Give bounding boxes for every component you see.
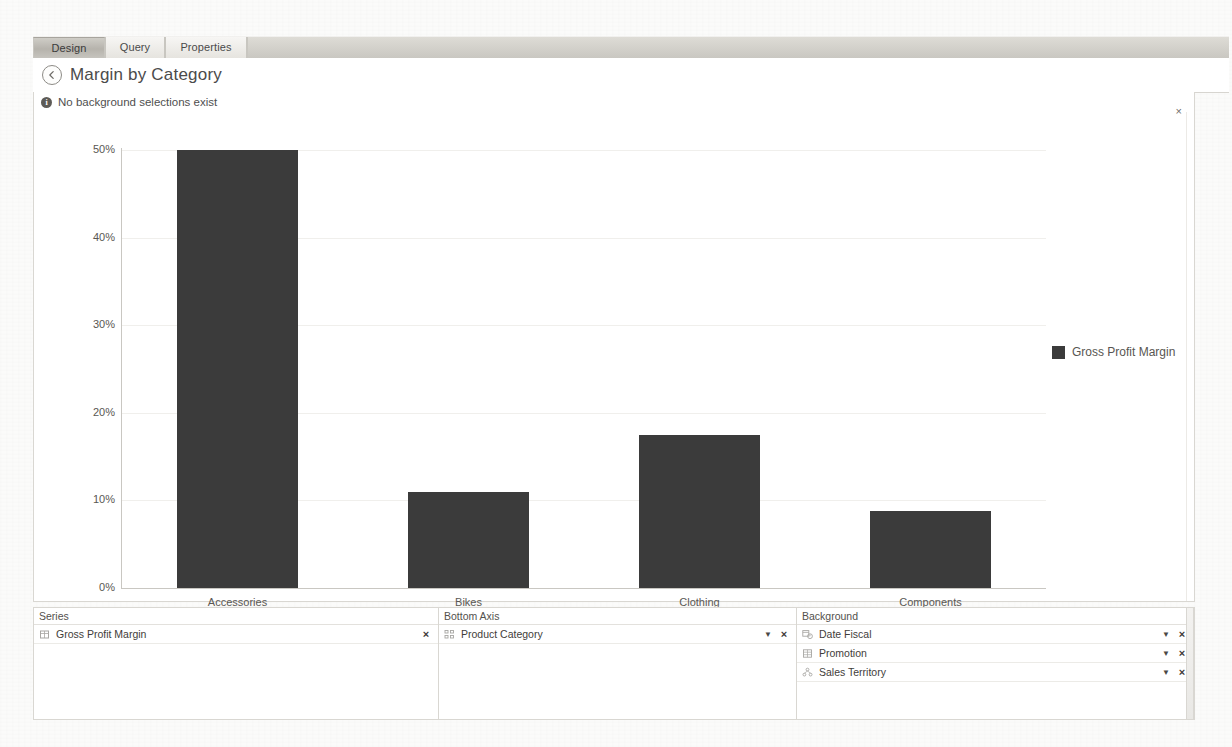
legend-swatch-gross-profit-margin: [1052, 346, 1065, 359]
page-header: Margin by Category: [33, 58, 1229, 93]
y-axis-tick-label: 40%: [67, 231, 115, 243]
tab-properties-label: Properties: [180, 41, 231, 53]
back-arrow-icon[interactable]: [42, 65, 62, 85]
tab-design-label: Design: [52, 42, 87, 54]
chart-container: i No background selections exist × 50%40…: [33, 92, 1195, 602]
field-label: Date Fiscal: [819, 628, 1160, 640]
panel-series: Series Gross Profit Margin ×: [33, 607, 439, 720]
page-title: Margin by Category: [70, 65, 222, 85]
tab-query-label: Query: [120, 41, 150, 53]
measure-icon: [39, 629, 50, 640]
panel-bottom-axis-header: Bottom Axis: [439, 608, 796, 625]
plot-area: 50%40%30%20%10%0% AccessoriesBikesClothi…: [34, 112, 1196, 601]
panel-series-header: Series: [34, 608, 438, 625]
bar-components[interactable]: [870, 511, 990, 588]
bar-accessories[interactable]: [177, 150, 297, 588]
panels-scrollbar[interactable]: [1186, 607, 1194, 720]
field-label: Promotion: [819, 647, 1160, 659]
y-axis-line: [121, 148, 122, 589]
chevron-down-icon[interactable]: ▼: [1160, 649, 1172, 658]
chart-legend: Gross Profit Margin: [1052, 345, 1175, 359]
y-axis-tick-label: 30%: [67, 318, 115, 330]
field-row-sales-territory[interactable]: Sales Territory ▼ ×: [797, 663, 1194, 682]
table-icon: [802, 648, 813, 659]
field-well-panels: Series Gross Profit Margin × Bottom Axis: [33, 607, 1195, 720]
y-axis-tick-label: 50%: [67, 143, 115, 155]
ribbon-tab-strip: Design Query Properties: [33, 36, 1229, 59]
legend-label-gross-profit-margin: Gross Profit Margin: [1072, 345, 1175, 359]
calendar-icon: [802, 629, 813, 640]
y-axis-tick-label: 0%: [67, 581, 115, 593]
field-row-promotion[interactable]: Promotion ▼ ×: [797, 644, 1194, 663]
bar-clothing[interactable]: [639, 435, 759, 588]
field-label: Product Category: [461, 628, 762, 640]
panel-bottom-axis: Bottom Axis Product Category ▼ ×: [439, 607, 797, 720]
territory-icon: [802, 667, 813, 678]
background-notice-text: No background selections exist: [58, 96, 217, 108]
chevron-down-icon[interactable]: ▼: [1160, 668, 1172, 677]
tab-properties[interactable]: Properties: [165, 37, 247, 58]
panel-background: Background Date Fiscal ▼ ×: [797, 607, 1195, 720]
y-axis-tick-label: 10%: [67, 493, 115, 505]
background-notice-bar: i No background selections exist: [34, 92, 1194, 112]
legend-divider: [1186, 112, 1187, 601]
field-label: Sales Territory: [819, 666, 1160, 678]
remove-field-icon[interactable]: ×: [420, 628, 432, 640]
field-row-product-category[interactable]: Product Category ▼ ×: [439, 625, 796, 644]
remove-field-icon[interactable]: ×: [778, 628, 790, 640]
tab-design[interactable]: Design: [33, 37, 105, 58]
panel-bottom-axis-body[interactable]: Product Category ▼ ×: [439, 625, 796, 644]
field-row-date-fiscal[interactable]: Date Fiscal ▼ ×: [797, 625, 1194, 644]
chevron-down-icon[interactable]: ▼: [1160, 630, 1172, 639]
chevron-down-icon[interactable]: ▼: [762, 630, 774, 639]
x-axis-line: [121, 588, 1046, 589]
panel-background-header: Background: [797, 608, 1194, 625]
panel-series-body[interactable]: Gross Profit Margin ×: [34, 625, 438, 644]
info-icon: i: [41, 97, 52, 108]
y-axis-tick-label: 20%: [67, 406, 115, 418]
tab-query[interactable]: Query: [105, 37, 165, 58]
field-row-gross-profit-margin[interactable]: Gross Profit Margin ×: [34, 625, 438, 644]
bar-bikes[interactable]: [408, 492, 528, 588]
field-label: Gross Profit Margin: [56, 628, 420, 640]
panel-background-body[interactable]: Date Fiscal ▼ × Promotion ▼ ×: [797, 625, 1194, 682]
tab-strip-filler: [247, 37, 1229, 58]
hierarchy-icon: [444, 629, 455, 640]
